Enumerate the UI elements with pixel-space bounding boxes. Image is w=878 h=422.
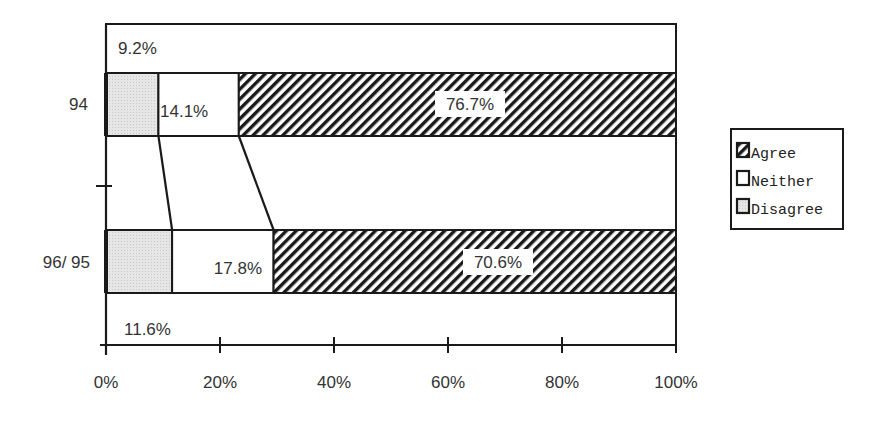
x-tick-label: 0% [94, 373, 119, 392]
y-axis: 9496/ 95 [43, 24, 112, 355]
data-label-disagree: 9.2% [118, 39, 157, 58]
x-tick-label: 20% [203, 373, 237, 392]
legend-swatch-agree [737, 143, 749, 157]
legend-label-agree: Agree [751, 146, 796, 163]
stacked-bar-chart: 9.2%14.1%76.7%11.6%17.8%70.6% 0%20%40%60… [0, 0, 878, 422]
y-category-label: 96/ 95 [43, 253, 90, 272]
x-tick-label: 80% [545, 373, 579, 392]
x-tick-label: 100% [654, 373, 697, 392]
data-label-neither: 17.8% [214, 259, 262, 278]
bar-segment-disagree [106, 230, 172, 293]
legend: AgreeNeitherDisagree [731, 129, 843, 229]
data-label-agree: 76.7% [446, 95, 494, 114]
x-tick-label: 60% [431, 373, 465, 392]
x-tick-label: 40% [317, 373, 351, 392]
bar-segment-disagree [106, 73, 158, 136]
legend-swatch-neither [737, 171, 749, 185]
data-label-neither: 14.1% [160, 102, 208, 121]
y-category-label: 94 [69, 95, 88, 114]
data-label-agree: 70.6% [474, 253, 522, 272]
data-label-disagree: 11.6% [124, 320, 171, 339]
x-axis: 0%20%40%60%80%100% [94, 337, 698, 392]
legend-label-disagree: Disagree [751, 202, 823, 219]
legend-label-neither: Neither [751, 174, 814, 191]
legend-swatch-disagree [737, 199, 749, 213]
